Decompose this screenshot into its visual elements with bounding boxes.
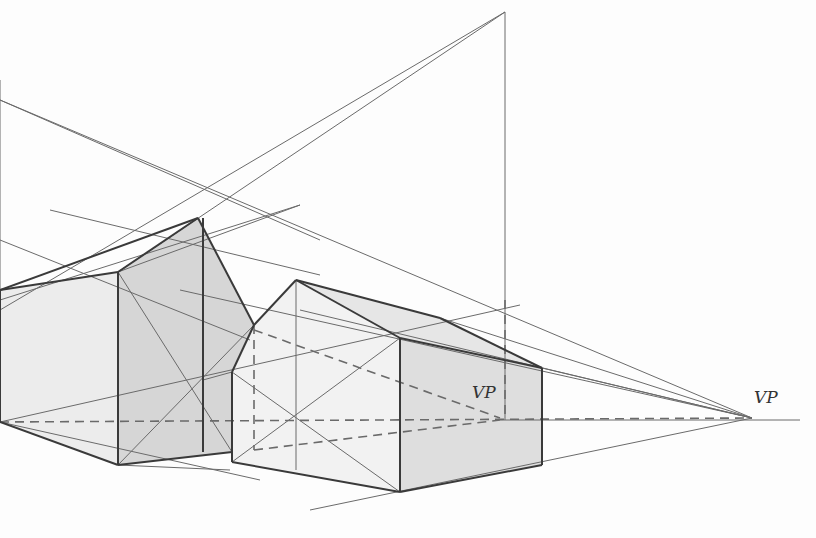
- left-box-front-face: [0, 272, 118, 465]
- vanishing-point-label: VP: [472, 382, 496, 402]
- vanishing-point-label: VP: [754, 387, 778, 407]
- construction-line: [0, 12, 505, 310]
- perspective-drawing: VPVP: [0, 0, 816, 538]
- construction-line: [118, 465, 230, 470]
- perspective-svg: [0, 0, 816, 538]
- construction-line: [0, 100, 320, 240]
- construction-line: [542, 368, 752, 418]
